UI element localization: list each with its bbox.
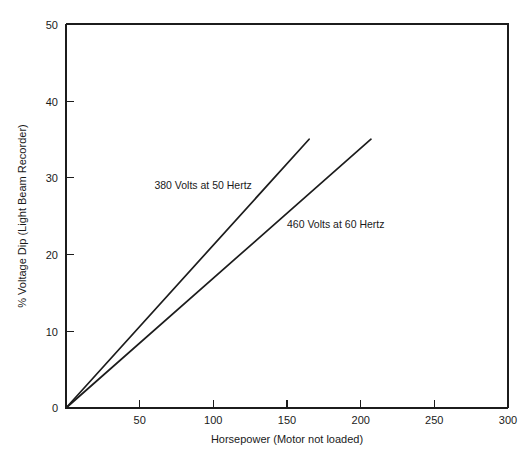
series-annotation-380v-50hz: 380 Volts at 50 Hertz (154, 179, 251, 191)
x-tick-label-300: 300 (499, 414, 517, 426)
x-axis-title: Horsepower (Motor not loaded) (211, 433, 363, 445)
y-axis-title: % Voltage Dip (Light Beam Recorder) (16, 124, 28, 307)
y-tick-label-20: 20 (46, 249, 58, 261)
y-tick-label-50: 50 (46, 19, 58, 31)
y-tick-label-0: 0 (52, 402, 58, 414)
voltage-dip-chart: 50 40 30 20 10 0 50 100 150 200 250 300 (0, 0, 532, 464)
y-tick-label-10: 10 (46, 326, 58, 338)
x-tick-label-100: 100 (204, 414, 222, 426)
x-tick-label-150: 150 (278, 414, 296, 426)
series-annotation-460v-60hz: 460 Volts at 60 Hertz (287, 218, 384, 230)
x-tick-label-250: 250 (425, 414, 443, 426)
y-tick-label-30: 30 (46, 172, 58, 184)
y-tick-label-40: 40 (46, 96, 58, 108)
x-tick-label-200: 200 (352, 414, 370, 426)
x-tick-label-50: 50 (134, 414, 146, 426)
chart-container: 50 40 30 20 10 0 50 100 150 200 250 300 (0, 0, 532, 464)
